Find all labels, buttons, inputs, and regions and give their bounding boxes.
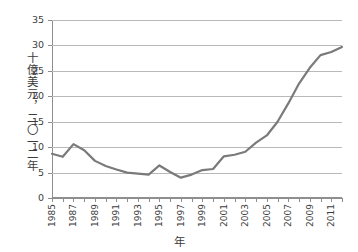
y-axis-tick-label: 10	[22, 141, 44, 152]
x-axis-tick-label: 2005	[262, 204, 272, 227]
y-axis-tick-label: 25	[22, 65, 44, 76]
x-axis-tick-label: 2001	[219, 204, 229, 227]
x-axis-tick	[299, 198, 300, 202]
x-axis-tick	[321, 198, 322, 202]
x-axis-tick	[235, 198, 236, 202]
line-chart: 十億美元，二〇一二年 05101520253035 19851987198919…	[0, 0, 358, 252]
x-axis-tick-label: 1993	[133, 204, 143, 227]
x-axis-tick	[278, 198, 279, 202]
x-axis-tick-label: 1991	[111, 204, 121, 227]
x-axis-tick	[181, 198, 182, 202]
x-axis-tick	[116, 198, 117, 202]
x-axis-tick	[149, 198, 150, 202]
x-axis-tick	[52, 198, 53, 202]
x-axis-title: 年	[0, 233, 358, 249]
x-axis-tick-label: 2007	[283, 204, 293, 227]
y-axis-tick-label: 5	[22, 167, 44, 178]
x-axis-tick	[267, 198, 268, 202]
x-axis-tick-label: 1997	[176, 204, 186, 227]
x-axis-tick-label: 1985	[47, 204, 57, 227]
y-axis-tick-label: 30	[22, 39, 44, 50]
y-axis-tick-label: 0	[22, 192, 44, 203]
x-axis-tick	[202, 198, 203, 202]
x-axis-tick	[84, 198, 85, 202]
x-axis-tick	[288, 198, 289, 202]
x-axis-tick	[256, 198, 257, 202]
x-axis-tick	[127, 198, 128, 202]
x-axis-tick	[310, 198, 311, 202]
x-axis-tick	[106, 198, 107, 202]
x-axis-tick	[342, 198, 343, 202]
data-series-line	[52, 20, 342, 198]
x-axis-tick	[95, 198, 96, 202]
x-axis-tick	[138, 198, 139, 202]
x-axis-tick	[170, 198, 171, 202]
x-axis-tick	[245, 198, 246, 202]
x-axis-tick-label: 1999	[197, 204, 207, 227]
y-axis-tick-label: 35	[22, 14, 44, 25]
x-axis-tick	[73, 198, 74, 202]
x-axis-tick-label: 2003	[240, 204, 250, 227]
x-axis-tick	[213, 198, 214, 202]
x-axis-tick	[331, 198, 332, 202]
x-axis-tick	[63, 198, 64, 202]
x-axis-tick-label: 1987	[68, 204, 78, 227]
y-axis-tick-label: 20	[22, 90, 44, 101]
x-axis-tick-label: 1989	[90, 204, 100, 227]
x-axis-tick-label: 2009	[305, 204, 315, 227]
x-axis-tick	[192, 198, 193, 202]
y-axis-tick-label: 15	[22, 116, 44, 127]
x-axis-tick	[224, 198, 225, 202]
x-axis-tick	[159, 198, 160, 202]
plot-area	[52, 20, 342, 198]
x-axis-tick-label: 1995	[154, 204, 164, 227]
x-axis-tick-label: 2011	[326, 204, 336, 227]
series-path	[52, 47, 342, 178]
